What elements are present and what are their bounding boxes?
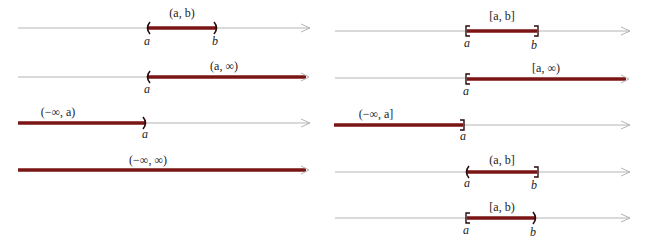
interval-label: (−∞, ∞) [129, 153, 167, 167]
number-line-half-open-interval-a-b-closed-right: (a, b] a b [335, 153, 630, 192]
endpoint-b-label: b [530, 225, 536, 239]
endpoint-b-label: b [531, 38, 537, 52]
endpoint-a-label: a [144, 34, 150, 48]
number-line-open-ray-neg-infinity-a: (−∞, a) a [18, 105, 310, 141]
interval-label: (a, ∞) [210, 59, 238, 73]
endpoint-a-label: a [464, 176, 470, 190]
number-line-open-ray-a-infinity: (a, ∞) a [18, 59, 309, 96]
interval-label: (−∞, a) [41, 105, 76, 119]
number-line-closed-ray-neg-infinity-a: (−∞, a] a [334, 107, 630, 143]
interval-label: [a, ∞) [532, 61, 560, 75]
number-line-half-open-interval-a-b-closed-left: [a, b) a b [335, 200, 630, 239]
number-line-closed-interval-a-b: [a, b] a b [335, 9, 630, 52]
interval-diagram: (a, b) a b (a, ∞) a (−∞, a) a (−∞, ∞) [a… [0, 0, 648, 245]
interval-label: (a, b] [489, 153, 514, 167]
number-line-all-reals: (−∞, ∞) [18, 153, 309, 174]
endpoint-a-label: a [463, 84, 469, 98]
endpoint-a-label: a [460, 129, 466, 143]
endpoint-a-label: a [463, 223, 469, 237]
interval-label: (−∞, a] [359, 107, 394, 121]
endpoint-a-label: a [144, 82, 150, 96]
endpoint-a-label: a [142, 127, 148, 141]
endpoint-a-label: a [464, 36, 470, 50]
interval-label: (a, b) [169, 6, 194, 20]
endpoint-b-label: b [531, 178, 537, 192]
interval-label: [a, b) [489, 200, 514, 214]
endpoint-b-label: b [212, 34, 218, 48]
interval-label: [a, b] [489, 9, 514, 23]
number-line-open-interval-a-b: (a, b) a b [18, 6, 310, 48]
number-line-closed-ray-a-infinity: [a, ∞) a [335, 61, 629, 98]
